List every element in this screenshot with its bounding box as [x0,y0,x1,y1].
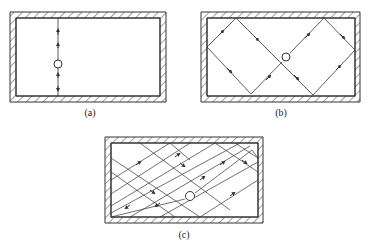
source-circle [186,192,195,201]
panel-b-label: (b) [266,107,296,118]
ray-diagram [0,0,372,249]
source-circle [282,53,290,61]
panel-b [201,12,360,102]
panel-a [10,12,166,102]
panel-c [105,137,263,223]
panel-c-label: (c) [169,229,199,240]
panel-a-label: (a) [75,107,105,118]
source-circle [54,60,62,68]
